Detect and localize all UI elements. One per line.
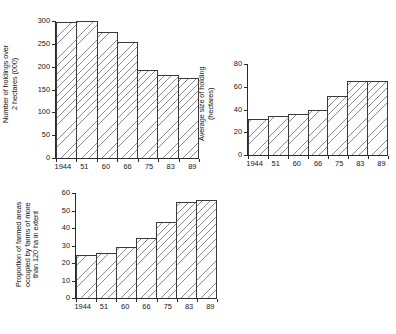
bar xyxy=(268,116,289,155)
y-tick-mark xyxy=(52,67,55,68)
y-tick-label: 150 xyxy=(38,86,50,93)
y-tick-label: 20 xyxy=(62,259,70,266)
x-tick-label: 75 xyxy=(329,160,350,168)
x-tick-mark xyxy=(177,299,178,302)
y-tick-label: 60 xyxy=(234,83,242,90)
x-tick-label: 75 xyxy=(138,163,160,171)
y-tick-label: 40 xyxy=(62,224,70,231)
x-tick-label: 66 xyxy=(117,163,139,171)
x-tick-mark xyxy=(217,299,218,302)
x-tick-mark xyxy=(368,156,369,159)
y-tick-mark xyxy=(72,281,75,282)
chart-proportion-large-farms-y-axis-label: Proportion of farmed areas occupied by f… xyxy=(15,182,43,307)
y-tick-mark xyxy=(244,110,247,111)
x-tick-label: 51 xyxy=(93,303,114,311)
y-tick-mark xyxy=(52,112,55,113)
bar xyxy=(97,32,118,158)
y-tick-label: 300 xyxy=(38,17,50,24)
bar xyxy=(367,81,388,155)
bar xyxy=(308,110,329,156)
x-tick-mark xyxy=(388,156,389,159)
x-tick-mark xyxy=(328,156,329,159)
chart-proportion-large-farms: Proportion of farmed areas occupied by f… xyxy=(14,180,244,334)
bar xyxy=(176,202,197,298)
x-tick-mark xyxy=(179,159,180,162)
x-tick-mark xyxy=(117,159,118,162)
y-tick-label: 50 xyxy=(62,207,70,214)
x-tick-mark xyxy=(157,299,158,302)
chart-proportion-large-farms-x-tick-labels: 1944516066758389 xyxy=(72,303,221,311)
x-tick-label: 89 xyxy=(200,303,221,311)
y-tick-mark xyxy=(72,298,75,299)
bar xyxy=(288,114,309,155)
y-tick-label: 0 xyxy=(238,151,242,158)
chart-average-size: Average size of holding (hectares) 02040… xyxy=(196,40,396,175)
x-tick-mark xyxy=(96,299,97,302)
bar xyxy=(136,238,157,298)
y-tick-label: 200 xyxy=(38,63,50,70)
y-tick-label: 80 xyxy=(234,60,242,67)
y-tick-mark xyxy=(72,246,75,247)
y-tick-mark xyxy=(52,158,55,159)
y-tick-mark xyxy=(244,87,247,88)
y-tick-mark xyxy=(72,228,75,229)
chart-proportion-large-farms-plot-area xyxy=(76,193,217,298)
chart-holdings-x-tick-labels: 1944516066758389 xyxy=(52,163,203,171)
x-tick-label: 60 xyxy=(95,163,117,171)
y-tick-label: 40 xyxy=(234,106,242,113)
chart-holdings-y-tick-labels: 050100150200250300 xyxy=(20,0,50,175)
chart-proportion-large-farms-y-tick-labels: 0102030405060 xyxy=(42,180,70,334)
x-tick-mark xyxy=(348,156,349,159)
x-tick-label: 75 xyxy=(157,303,178,311)
chart-holdings-bars xyxy=(56,21,199,158)
bar xyxy=(56,22,77,158)
y-tick-mark xyxy=(72,211,75,212)
bar xyxy=(156,222,177,298)
x-tick-label: 51 xyxy=(74,163,96,171)
x-tick-label: 60 xyxy=(115,303,136,311)
y-tick-label: 10 xyxy=(62,277,70,284)
bar xyxy=(96,253,117,299)
y-tick-label: 30 xyxy=(62,242,70,249)
x-tick-mark xyxy=(197,299,198,302)
y-tick-mark xyxy=(52,90,55,91)
bar xyxy=(347,81,368,155)
bar xyxy=(76,21,97,158)
x-tick-mark xyxy=(138,159,139,162)
y-tick-mark xyxy=(244,132,247,133)
chart-average-size-bars xyxy=(248,64,388,155)
y-tick-label: 20 xyxy=(234,129,242,136)
bar xyxy=(327,96,348,155)
x-tick-label: 89 xyxy=(371,160,392,168)
x-tick-label: 51 xyxy=(265,160,286,168)
chart-holdings-y-axis-label: Number of holdings over 2 hectares (000) xyxy=(2,14,20,154)
y-tick-label: 250 xyxy=(38,40,50,47)
y-tick-label: 0 xyxy=(46,154,50,161)
x-tick-mark xyxy=(308,156,309,159)
y-tick-mark xyxy=(52,135,55,136)
y-tick-label: 100 xyxy=(38,109,50,116)
x-tick-label: 83 xyxy=(350,160,371,168)
chart-average-size-y-tick-labels: 020406080 xyxy=(214,40,242,175)
chart-proportion-large-farms-bars xyxy=(76,193,217,298)
x-tick-label: 1944 xyxy=(72,303,93,311)
x-tick-mark xyxy=(97,159,98,162)
bar xyxy=(137,70,158,158)
y-tick-mark xyxy=(52,44,55,45)
x-tick-label: 66 xyxy=(136,303,157,311)
x-tick-mark xyxy=(158,159,159,162)
x-tick-label: 60 xyxy=(286,160,307,168)
bar xyxy=(116,247,137,298)
x-tick-label: 83 xyxy=(160,163,182,171)
y-tick-mark xyxy=(72,263,75,264)
x-tick-label: 83 xyxy=(178,303,199,311)
y-tick-mark xyxy=(52,21,55,22)
y-tick-mark xyxy=(244,64,247,65)
chart-holdings-plot-area xyxy=(56,21,199,158)
chart-holdings: Number of holdings over 2 hectares (000)… xyxy=(0,0,200,175)
x-tick-mark xyxy=(268,156,269,159)
chart-average-size-plot-area xyxy=(248,64,388,155)
y-tick-label: 50 xyxy=(42,131,50,138)
y-tick-mark xyxy=(72,193,75,194)
bar xyxy=(248,119,269,155)
